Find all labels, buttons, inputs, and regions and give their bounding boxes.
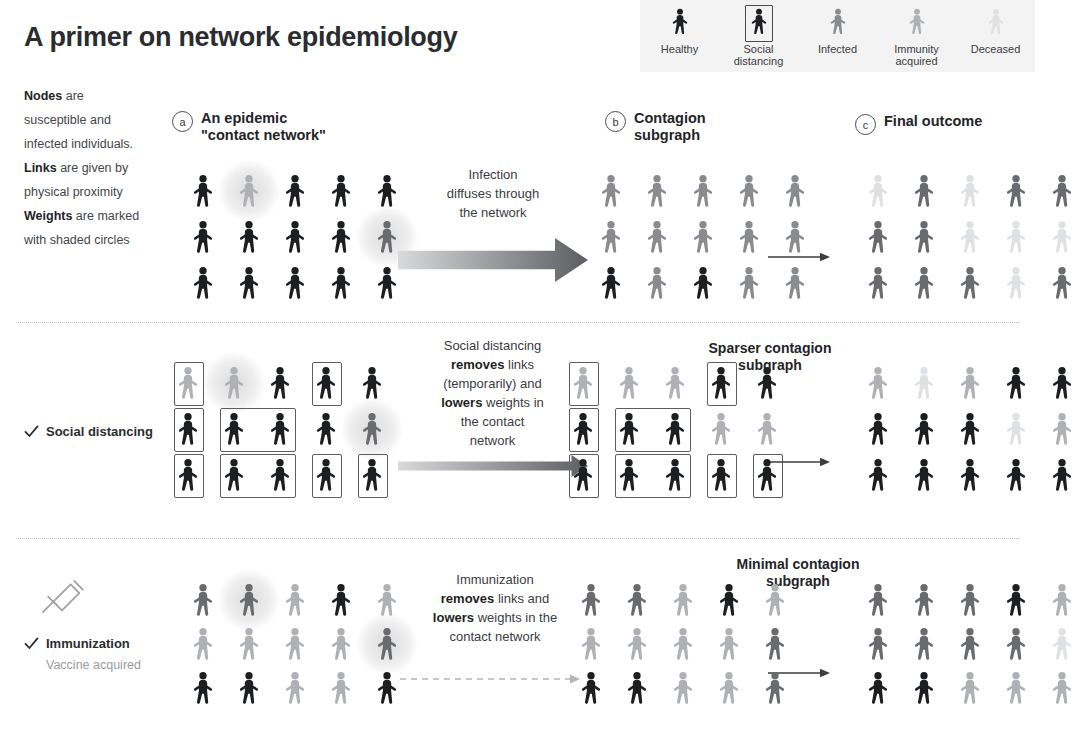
legend-label-line: Immunity [878,43,956,55]
person-icon [627,671,647,705]
person-healthy [285,220,305,254]
person-immune [573,366,593,400]
legend-figure [720,6,798,40]
person-icon [739,220,759,254]
person-infected [647,266,667,300]
person-cell [901,360,947,406]
panel-header-b: b Contagion subgraph [605,110,706,144]
person-immune [765,583,785,617]
person-healthy [868,458,888,492]
person-immune [239,174,259,208]
person-cell [901,168,947,214]
person-icon [914,220,934,254]
person-cell [226,666,272,710]
person-dark_mid [868,266,888,300]
person-icon [719,583,739,617]
lead-line-text: susceptible and [24,113,111,127]
person-cell [993,578,1039,622]
person-immune [581,627,601,661]
person-cell [993,666,1039,710]
person-icon [785,174,805,208]
person-icon [193,627,213,661]
panel-header-a: a An epidemic "contact network" [172,110,326,144]
person-cell [303,360,349,406]
person-dark_mid [868,583,888,617]
legend-item-immunity-acquired: Immunityacquired [878,6,956,67]
person-icon [1052,412,1072,446]
person-icon [785,266,805,300]
person-cell [947,452,993,498]
person-cell [1039,578,1076,622]
person-cell [211,360,257,406]
person-icon [1006,627,1026,661]
legend-label: Infected [799,43,877,55]
person-cell [698,452,744,498]
person-icon [960,220,980,254]
person-icon [331,266,351,300]
person-healthy [239,220,259,254]
person-icon [765,627,785,661]
person-cell [947,666,993,710]
person-icon [711,366,731,400]
person-cell [303,452,349,498]
person-dark_mid [914,220,934,254]
person-dark_mid [377,220,397,254]
person-cell [606,452,652,498]
person-icon [331,174,351,208]
person-immune [285,671,305,705]
lead-line-text: are [62,89,84,103]
mid-text-rest: weights in the [474,610,557,625]
mid-text-keyword: lowers [433,610,474,625]
mid-text-line: Social distancing [395,336,590,355]
person-cell [680,168,726,214]
person-immune [224,366,244,400]
social-distancing-box [745,5,773,42]
lead-line: Nodes are [24,84,174,108]
person-deceased [914,366,934,400]
person-immune [673,627,693,661]
person-icon [868,220,888,254]
lead-line-text: are given by [57,161,129,175]
person-icon [1052,174,1072,208]
person-icon [316,458,336,492]
person-icon [224,412,244,446]
person-icon [239,266,259,300]
person-icon [914,458,934,492]
person-cell [947,622,993,666]
person-infected [601,220,621,254]
lead-line: with shaded circles [24,228,174,252]
person-icon [316,366,336,400]
person-cell [993,622,1039,666]
person-healthy [193,266,213,300]
person-icon [988,8,1004,35]
section-title-line: Sparser contagion [670,340,870,357]
person-icon [239,174,259,208]
panel-title-b-line1: Contagion [634,110,706,127]
person-dark_mid [765,671,785,705]
person-cell [349,360,395,406]
person-icon [665,366,685,400]
person-icon [178,366,198,400]
person-cell [272,168,318,214]
person-cell [226,622,272,666]
person-cell [726,214,772,260]
person-icon [193,266,213,300]
mid-text-keyword: removes [441,591,494,606]
person-cell [226,260,272,306]
person-icon [1052,627,1072,661]
mid-text-line: removes links [395,355,590,374]
person-icon [1006,174,1026,208]
panel-title-c-line1: Final outcome [884,113,982,130]
legend-label: Healthy [641,43,719,55]
person-immune [1052,671,1072,705]
person-cell [318,260,364,306]
row-label-social-distancing: Social distancing [24,424,153,439]
person-icon [719,627,739,661]
mid-text-keyword: lowers [441,395,482,410]
person-icon [362,366,382,400]
person-deceased [1006,266,1026,300]
person-icon [665,458,685,492]
person-icon [914,627,934,661]
person-infected [647,220,667,254]
person-cell [993,452,1039,498]
